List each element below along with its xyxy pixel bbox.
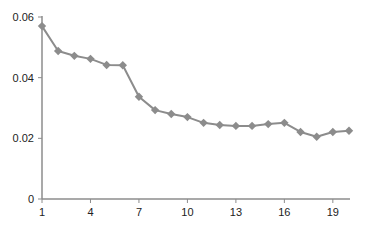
x-tick-label: 19 [327, 206, 339, 218]
diamond-marker [86, 55, 94, 63]
diamond-marker [199, 119, 207, 127]
diamond-marker [183, 113, 191, 121]
diamond-marker [280, 119, 288, 127]
x-tick-label: 7 [136, 206, 142, 218]
x-tick-label: 1 [39, 206, 45, 218]
x-tick-label: 4 [87, 206, 93, 218]
diamond-marker [119, 61, 127, 69]
diamond-marker [248, 122, 256, 130]
diamond-marker [70, 52, 78, 60]
y-tick-label: 0.02 [13, 132, 34, 144]
x-tick-label: 16 [278, 206, 290, 218]
diamond-marker [216, 121, 224, 129]
diamond-marker [264, 120, 272, 128]
diamond-marker [167, 110, 175, 118]
y-tick-label: 0.04 [13, 72, 34, 84]
y-tick-label: 0 [28, 193, 34, 205]
y-axis: 00.020.040.06 [13, 11, 42, 205]
diamond-marker [329, 128, 337, 136]
diamond-marker [296, 128, 304, 136]
diamond-marker [345, 127, 353, 135]
y-tick-label: 0.06 [13, 11, 34, 23]
diamond-marker [232, 122, 240, 130]
series-path [42, 26, 349, 137]
x-axis: 14710131619 [39, 199, 350, 218]
diamond-marker [312, 133, 320, 141]
diamond-marker [102, 61, 110, 69]
line-chart: 00.020.040.06 14710131619 [0, 0, 365, 231]
x-tick-label: 10 [181, 206, 193, 218]
series-line [38, 22, 353, 141]
x-tick-label: 13 [230, 206, 242, 218]
